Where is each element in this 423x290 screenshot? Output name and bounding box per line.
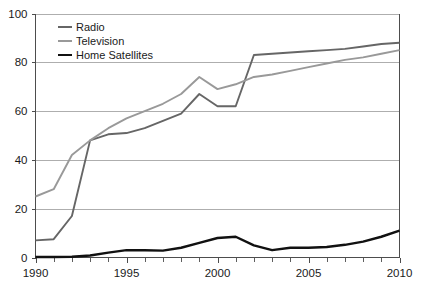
y-axis-label-40: 40 bbox=[15, 154, 28, 166]
legend-label-home-satellites: Home Satellites bbox=[76, 49, 154, 61]
legend-label-radio: Radio bbox=[76, 21, 105, 33]
x-axis-label-1995: 1995 bbox=[114, 267, 140, 279]
y-axis-label-20: 20 bbox=[15, 203, 28, 215]
y-axis-label-80: 80 bbox=[15, 56, 28, 68]
y-axis-label-60: 60 bbox=[15, 105, 28, 117]
x-axis-label-1990: 1990 bbox=[23, 267, 49, 279]
chart-canvas: 020406080100 19901995200020052010 RadioT… bbox=[0, 0, 423, 290]
y-axis-label-0: 0 bbox=[21, 252, 27, 264]
x-axis-label-2010: 2010 bbox=[387, 267, 413, 279]
chart-background bbox=[0, 0, 423, 290]
legend-label-television: Television bbox=[76, 35, 124, 47]
x-axis-label-2005: 2005 bbox=[296, 267, 322, 279]
y-axis-label-100: 100 bbox=[8, 8, 27, 20]
line-chart: 020406080100 19901995200020052010 RadioT… bbox=[0, 0, 423, 290]
x-axis-label-2000: 2000 bbox=[205, 267, 231, 279]
